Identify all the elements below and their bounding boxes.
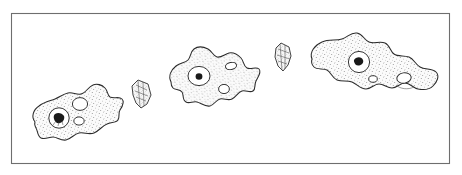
illustration-figure: [0, 0, 462, 175]
amoeba-2-vacuole-lower: [219, 84, 230, 93]
illustration-canvas: [0, 0, 462, 175]
amoeba-3-vacuole-small: [369, 76, 378, 83]
amoeba-1-vacuole-lower: [74, 117, 84, 125]
amoeba-2-nucleolus: [196, 73, 203, 79]
amoeba-1-vacuole-upper: [72, 98, 87, 111]
